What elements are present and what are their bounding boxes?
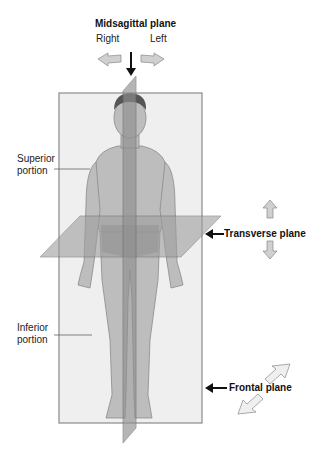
frontal-pointer-arrow-icon bbox=[205, 383, 227, 393]
midsagittal-plane-label: Midsagittal plane bbox=[95, 18, 176, 30]
down-arrow-icon bbox=[263, 241, 277, 259]
transverse-plane-label: Transverse plane bbox=[224, 228, 306, 240]
inferior-line2: portion bbox=[17, 334, 48, 346]
frontal-plane-label: Frontal plane bbox=[229, 382, 292, 394]
left-direction-arrow-icon bbox=[141, 53, 164, 66]
midsagittal-plane bbox=[123, 76, 136, 443]
superior-portion-label: Superior portion bbox=[17, 153, 55, 177]
right-direction-label: Right bbox=[96, 33, 119, 45]
inferior-portion-label: Inferior portion bbox=[17, 322, 48, 346]
midsagittal-arrow-icon bbox=[126, 52, 136, 76]
right-direction-arrow-icon bbox=[98, 53, 121, 66]
frontal-forward-arrow-icon bbox=[238, 394, 263, 414]
superior-line2: portion bbox=[17, 165, 55, 177]
transverse-pointer-arrow-icon bbox=[205, 229, 224, 239]
superior-line1: Superior bbox=[17, 153, 55, 165]
up-arrow-icon bbox=[263, 200, 277, 218]
inferior-line1: Inferior bbox=[17, 322, 48, 334]
frontal-back-arrow-icon bbox=[265, 364, 290, 384]
left-direction-label: Left bbox=[150, 33, 167, 45]
